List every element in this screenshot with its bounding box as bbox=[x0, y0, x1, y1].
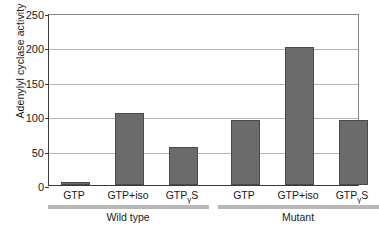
group-rule bbox=[48, 205, 209, 209]
y-tick-label: 0 bbox=[38, 181, 44, 193]
bar bbox=[231, 120, 260, 185]
bar-series bbox=[49, 15, 358, 185]
y-tick-label: 200 bbox=[26, 43, 44, 55]
group-rule bbox=[218, 205, 379, 209]
bar bbox=[115, 113, 144, 185]
y-tick-label: 50 bbox=[32, 147, 44, 159]
plot-area: 050100150200250 bbox=[48, 14, 359, 186]
y-tick-label: 150 bbox=[26, 78, 44, 90]
group-label: Mutant bbox=[282, 211, 314, 223]
group-label: Wild type bbox=[106, 211, 149, 223]
x-tick-label: GTP+iso bbox=[277, 189, 318, 201]
y-tick-label: 100 bbox=[26, 112, 44, 124]
x-tick-label: GTP+iso bbox=[107, 189, 148, 201]
x-tick-label: GTP bbox=[233, 189, 255, 201]
bar bbox=[339, 120, 368, 185]
y-axis-title: Adenylyl cyclase activity bbox=[14, 0, 26, 141]
x-tick-label: GTP bbox=[63, 189, 85, 201]
bar bbox=[285, 47, 314, 185]
y-tick-mark bbox=[45, 187, 49, 188]
y-tick-label: 250 bbox=[26, 9, 44, 21]
x-tick-label: GTPγS bbox=[166, 189, 199, 204]
bar bbox=[61, 182, 90, 185]
x-tick-label: GTPγS bbox=[336, 189, 369, 204]
bar bbox=[169, 147, 198, 185]
